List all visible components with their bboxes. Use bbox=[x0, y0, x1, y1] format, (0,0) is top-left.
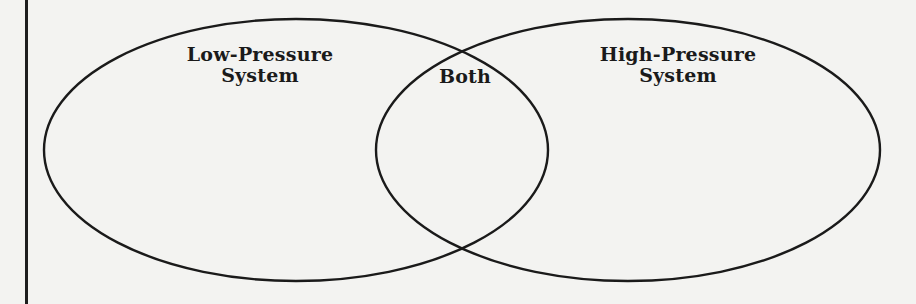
high-pressure-label-line2: System bbox=[578, 65, 778, 86]
venn-diagram bbox=[0, 0, 916, 304]
high-pressure-label: High-Pressure System bbox=[578, 44, 778, 86]
low-pressure-label: Low-Pressure System bbox=[160, 44, 360, 86]
low-pressure-label-line1: Low-Pressure bbox=[160, 44, 360, 65]
high-pressure-label-line1: High-Pressure bbox=[578, 44, 778, 65]
low-pressure-label-line2: System bbox=[160, 65, 360, 86]
both-label: Both bbox=[425, 66, 505, 87]
